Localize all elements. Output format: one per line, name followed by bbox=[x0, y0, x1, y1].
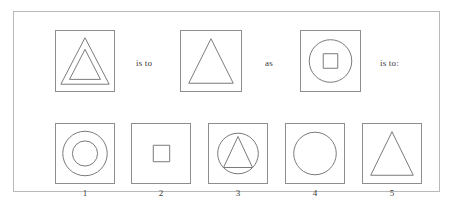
option-box-5[interactable] bbox=[362, 123, 422, 184]
circle-with-square-icon bbox=[301, 31, 360, 91]
option-label-4: 4 bbox=[285, 189, 345, 198]
option-label-3: 3 bbox=[208, 189, 268, 198]
concentric-circles-icon bbox=[56, 124, 114, 183]
connector-as: as bbox=[265, 59, 273, 68]
premise-box-a bbox=[55, 30, 115, 92]
triangle-icon bbox=[181, 31, 241, 91]
small-square-icon bbox=[132, 124, 190, 183]
option-box-2[interactable] bbox=[131, 123, 191, 184]
option-label-2: 2 bbox=[131, 189, 191, 198]
triangle-icon bbox=[363, 124, 421, 183]
connector-is-to-last: is to: bbox=[380, 59, 399, 68]
option-box-3[interactable] bbox=[208, 123, 268, 184]
puzzle-outer-frame: is to as is to: bbox=[13, 11, 440, 192]
option-label-1: 1 bbox=[55, 189, 115, 198]
circle-icon bbox=[286, 124, 344, 183]
visual-analogy-puzzle: is to as is to: bbox=[0, 0, 454, 203]
connector-is-to-first: is to bbox=[136, 59, 152, 68]
premise-box-c bbox=[300, 30, 361, 92]
option-box-4[interactable] bbox=[285, 123, 345, 184]
premise-box-b bbox=[180, 30, 242, 92]
option-label-5: 5 bbox=[362, 189, 422, 198]
nested-triangles-icon bbox=[56, 31, 114, 91]
triangle-in-circle-icon bbox=[209, 124, 267, 183]
option-box-1[interactable] bbox=[55, 123, 115, 184]
